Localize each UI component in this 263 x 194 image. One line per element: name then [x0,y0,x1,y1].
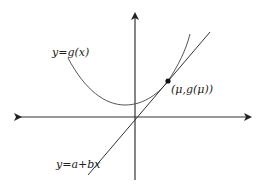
tangent-point [165,78,170,83]
point-label: (μ,g(μ)) [171,83,213,96]
diagram: y=g(x) (μ,g(μ)) y=a+bx [0,0,263,194]
tangent-line [88,32,210,175]
line-label: y=a+bx [55,158,101,171]
curve-label: y=g(x) [51,46,89,59]
